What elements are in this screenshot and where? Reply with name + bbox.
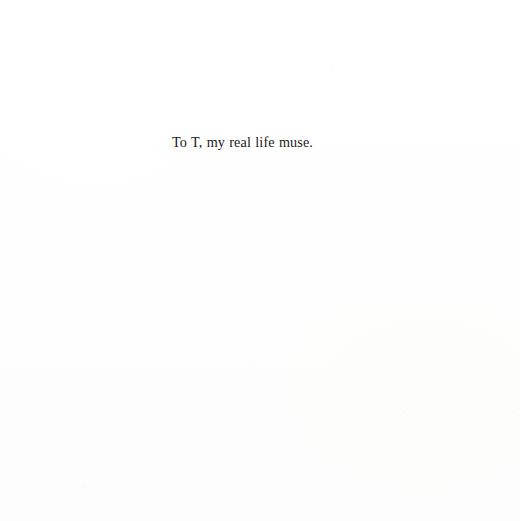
dedication-text-block: To T, my real life muse.	[0, 133, 485, 151]
dedication-line: To T, my real life muse.	[172, 134, 313, 150]
scan-speck	[331, 64, 333, 66]
scan-speck	[239, 280, 242, 283]
scan-speck	[309, 292, 311, 294]
scan-speck	[431, 440, 433, 442]
dedication-page: To T, my real life muse.	[0, 0, 520, 521]
scan-speck	[403, 411, 405, 413]
scan-speck	[473, 411, 475, 413]
scan-speck	[435, 447, 437, 449]
scan-speck	[17, 327, 19, 329]
paper-texture	[0, 0, 520, 521]
scan-speck	[155, 171, 157, 173]
scan-speck	[82, 486, 84, 488]
scan-speck	[8, 174, 10, 176]
scan-speck	[512, 411, 514, 413]
